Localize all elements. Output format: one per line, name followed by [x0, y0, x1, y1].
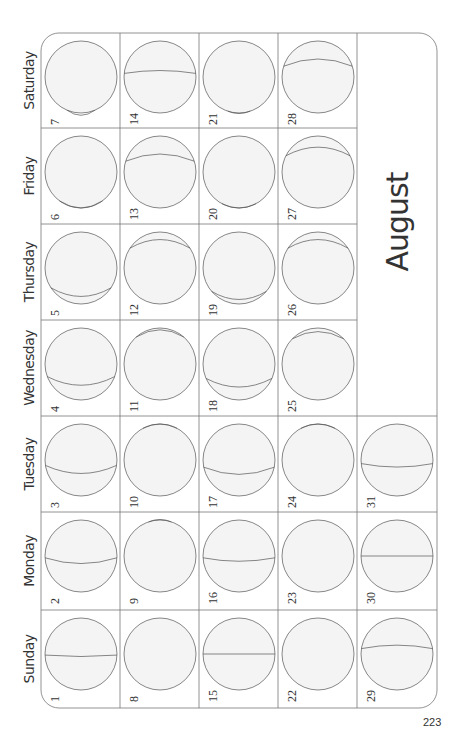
moon-phase-icon: [124, 424, 196, 496]
day-cell[interactable]: 19: [203, 232, 275, 316]
day-number: 6: [48, 214, 62, 220]
day-number: 24: [285, 496, 299, 508]
day-cell[interactable]: 6: [45, 136, 117, 220]
moon-phase-icon: [45, 424, 117, 496]
moon-phase-icon: [124, 328, 196, 400]
day-cell[interactable]: 5: [45, 232, 117, 316]
day-cell[interactable]: 10: [124, 424, 196, 508]
day-label-thursday: Thursday: [21, 242, 37, 304]
day-number: 16: [206, 592, 220, 604]
day-cell[interactable]: 25: [282, 328, 354, 412]
day-cell[interactable]: 9: [124, 519, 196, 604]
day-number: 11: [127, 400, 141, 412]
day-cell[interactable]: 11: [124, 328, 196, 412]
day-number: 30: [364, 592, 378, 604]
day-cell[interactable]: 17: [203, 424, 275, 508]
day-labels: SaturdayFridayThursdayWednesdayTuesdayMo…: [21, 51, 37, 683]
moon-phase-icon: [282, 136, 354, 208]
day-cell[interactable]: 3: [45, 424, 117, 508]
day-label-sunday: Sunday: [21, 634, 37, 683]
day-number: 5: [48, 310, 62, 316]
day-cell[interactable]: 23: [282, 520, 354, 604]
moon-phase-icon: [203, 328, 275, 400]
moon-phase-icon: [124, 232, 196, 304]
day-cell[interactable]: 29: [361, 618, 433, 702]
moon-phase-icon: [361, 618, 433, 690]
day-number: 4: [48, 406, 62, 412]
day-number: 15: [206, 690, 220, 702]
day-label-friday: Friday: [21, 156, 37, 195]
day-number: 22: [285, 690, 299, 702]
day-label-saturday: Saturday: [21, 51, 37, 110]
day-number: 8: [127, 696, 141, 702]
moon-phase-icon: [203, 424, 275, 496]
day-number: 21: [206, 113, 220, 125]
calendar-page: SaturdayFridayThursdayWednesdayTuesdayMo…: [0, 0, 465, 743]
day-cell[interactable]: 20: [203, 136, 275, 220]
moon-phase-icon: [124, 520, 196, 592]
moon-phase-icon: [124, 41, 196, 113]
day-cell[interactable]: 2: [45, 520, 117, 604]
day-cell[interactable]: 21: [203, 41, 275, 125]
day-cell[interactable]: 18: [203, 328, 275, 412]
day-number: 13: [127, 208, 141, 220]
calendar-grid: SaturdayFridayThursdayWednesdayTuesdayMo…: [0, 0, 465, 743]
day-number: 28: [285, 113, 299, 125]
day-number: 12: [127, 304, 141, 316]
moon-phase-icon: [282, 41, 354, 113]
day-cell[interactable]: 16: [203, 520, 275, 604]
moon-phase-icon: [124, 136, 196, 208]
day-cell[interactable]: 12: [124, 232, 196, 316]
day-cell[interactable]: 31: [361, 424, 433, 508]
moon-phase-icon: [45, 618, 117, 690]
moon-phase-icon: [203, 232, 275, 304]
day-number: 2: [48, 598, 62, 604]
moon-phase-icon: [203, 520, 275, 592]
month-title: August: [380, 171, 415, 271]
moon-phase-icon: [45, 520, 117, 592]
moon-phase-icon: [203, 136, 275, 208]
day-number: 7: [48, 119, 62, 125]
moon-phase-icon: [361, 424, 433, 496]
day-cell[interactable]: 22: [282, 618, 354, 702]
moon-phase-icon: [45, 41, 117, 113]
moon-phase-icon: [45, 232, 117, 304]
moon-phase-icon: [282, 520, 354, 592]
day-cell[interactable]: 7: [45, 41, 117, 125]
day-number: 31: [364, 496, 378, 508]
day-number: 10: [127, 496, 141, 508]
moon-phase-icon: [282, 424, 354, 496]
day-cell[interactable]: 27: [282, 136, 354, 220]
day-number: 19: [206, 304, 220, 316]
day-number: 3: [48, 502, 62, 508]
day-cell[interactable]: 15: [203, 618, 275, 702]
day-cell[interactable]: 1: [45, 618, 117, 702]
moon-phase-icon: [45, 136, 117, 208]
day-cells: 7654321141312111098212019181716152827262…: [45, 41, 433, 702]
day-cell[interactable]: 14: [124, 41, 196, 125]
day-number: 9: [127, 598, 141, 604]
day-number: 14: [127, 113, 141, 125]
day-cell[interactable]: 30: [361, 520, 433, 604]
day-cell[interactable]: 24: [282, 424, 354, 508]
day-cell[interactable]: 4: [45, 328, 117, 412]
day-label-tuesday: Tuesday: [21, 437, 37, 491]
day-cell[interactable]: 13: [124, 136, 196, 220]
day-number: 23: [285, 592, 299, 604]
day-cell[interactable]: 8: [124, 618, 196, 702]
day-number: 29: [364, 690, 378, 702]
day-number: 27: [285, 208, 299, 220]
day-label-wednesday: Wednesday: [21, 330, 37, 406]
day-cell[interactable]: 26: [282, 232, 354, 316]
day-number: 26: [285, 304, 299, 316]
moon-phase-icon: [124, 618, 196, 690]
page-number: 223: [423, 716, 441, 728]
moon-phase-icon: [45, 328, 117, 400]
moon-phase-icon: [282, 232, 354, 304]
day-number: 25: [285, 400, 299, 412]
day-number: 18: [206, 400, 220, 412]
day-number: 17: [206, 496, 220, 508]
day-cell[interactable]: 28: [282, 41, 354, 125]
moon-phase-icon: [282, 618, 354, 690]
day-number: 20: [206, 208, 220, 220]
